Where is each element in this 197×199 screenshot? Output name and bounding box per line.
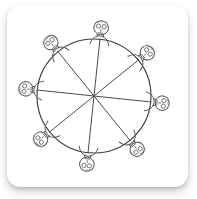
screenshot-root — [0, 0, 197, 199]
round-table-illustration — [0, 0, 197, 199]
